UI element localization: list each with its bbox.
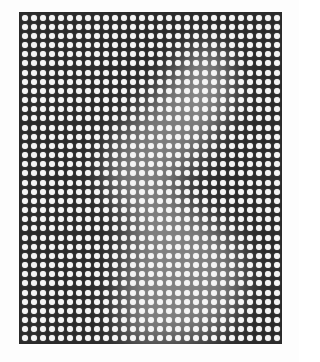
grid-dot [193,152,199,158]
grid-dot [139,308,145,314]
grid-dot [85,143,91,149]
grid-dot [22,207,28,213]
grid-dot [67,125,73,131]
grid-dot [238,198,244,204]
grid-dot [211,189,217,195]
grid-dot [76,115,82,121]
grid-dot [211,235,217,241]
grid-dot [202,51,208,57]
grid-dot [157,308,163,314]
grid-dot [247,42,253,48]
grid-dot [193,79,199,85]
grid-dot [22,88,28,94]
grid-dot [157,70,163,76]
grid-dot [274,225,280,231]
grid-dot [76,70,82,76]
grid-dot [247,125,253,131]
grid-dot [211,225,217,231]
grid-dot [103,335,109,341]
grid-dot [67,33,73,39]
grid-dot [193,308,199,314]
grid-dot [112,70,118,76]
grid-dot [94,33,100,39]
grid-dot [103,15,109,21]
grid-dot [193,180,199,186]
grid-dot [112,125,118,131]
grid-dot [76,161,82,167]
grid-dot [256,42,262,48]
grid-dot [265,143,271,149]
grid-dot [121,42,127,48]
grid-dot [139,152,145,158]
grid-dot [274,335,280,341]
grid-dot [103,106,109,112]
grid-dot [49,51,55,57]
grid-dot [40,79,46,85]
grid-dot [121,308,127,314]
grid-dot [229,42,235,48]
grid-dot [49,299,55,305]
grid-dot [265,225,271,231]
grid-dot [157,143,163,149]
grid-dot [94,42,100,48]
grid-dot [31,225,37,231]
grid-dot [256,253,262,259]
grid-dot [94,125,100,131]
grid-dot [40,24,46,30]
grid-dot [31,161,37,167]
grid-dot [67,97,73,103]
grid-dot [130,216,136,222]
grid-dot [94,317,100,323]
grid-dot [130,326,136,332]
grid-dot [49,244,55,250]
grid-dot [229,335,235,341]
grid-dot [202,308,208,314]
grid-dot [40,134,46,140]
grid-dot [175,125,181,131]
grid-dot [31,170,37,176]
grid-dot [247,207,253,213]
grid-dot [40,225,46,231]
grid-dot [175,161,181,167]
grid-dot [85,51,91,57]
grid-dot [184,97,190,103]
grid-dot [220,290,226,296]
grid-dot [274,244,280,250]
grid-dot [211,152,217,158]
grid-dot [166,216,172,222]
grid-dot [211,51,217,57]
grid-dot [67,244,73,250]
grid-dot [265,134,271,140]
grid-dot [22,189,28,195]
grid-dot [40,335,46,341]
grid-dot [220,79,226,85]
grid-dot [184,51,190,57]
grid-dot [103,216,109,222]
grid-dot [76,262,82,268]
grid-dot [85,326,91,332]
grid-dot [103,308,109,314]
grid-dot [220,198,226,204]
grid-dot [67,253,73,259]
grid-dot [22,170,28,176]
grid-dot [31,253,37,259]
grid-dot [121,115,127,121]
grid-dot [148,70,154,76]
grid-dot [184,290,190,296]
grid-dot [112,106,118,112]
grid-dot [139,198,145,204]
grid-dot [67,24,73,30]
grid-dot [31,235,37,241]
grid-dot [58,198,64,204]
grid-dot [238,180,244,186]
grid-dot [211,15,217,21]
grid-dot [211,317,217,323]
grid-dot [67,317,73,323]
grid-dot [76,143,82,149]
grid-dot [85,161,91,167]
grid-dot [184,170,190,176]
grid-dot [103,51,109,57]
grid-dot [40,198,46,204]
grid-dot [229,106,235,112]
grid-dot [274,326,280,332]
